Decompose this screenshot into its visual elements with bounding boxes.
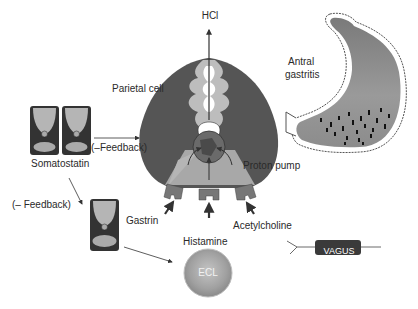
somatostatin-to-gastrin-arrow [69, 178, 82, 204]
acetylcholine-label: Acetylcholine [233, 220, 292, 232]
stomach-illustration [286, 13, 406, 152]
somatostatin-cells [30, 106, 91, 155]
parietal-cell-label: Parietal cell [112, 83, 164, 95]
gastrin-to-ecl-arrow [124, 247, 172, 262]
antral-gastritis-label-line1: Antral [288, 56, 314, 68]
parietal-cell [139, 30, 278, 200]
gastrin-receptor-arrow [165, 202, 173, 214]
proton-pump-label: Proton pump [243, 160, 300, 172]
feedback-top-label: (–Feedback) [91, 142, 147, 154]
histamine-label: Histamine [183, 236, 227, 248]
feedback-left-label: (– Feedback) [12, 199, 71, 211]
diagram-canvas [0, 0, 418, 309]
acetylcholine-receptor-arrow [247, 203, 254, 214]
vagus-label: VAGUS [318, 246, 360, 256]
somatostatin-label: Somatostatin [31, 158, 89, 170]
ecl-label: ECL [188, 267, 228, 278]
gastrin-label: Gastrin [126, 215, 158, 227]
antral-gastritis-label-line2: gastritis [285, 69, 319, 81]
gastrin-cell [90, 199, 119, 251]
hcl-label: HCl [199, 10, 221, 22]
